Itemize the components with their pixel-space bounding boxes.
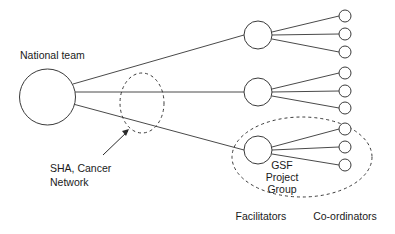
sha-cancer-network-label-line2: Network — [50, 176, 89, 188]
gsf-project-group-label-line1: GSF — [271, 159, 293, 171]
sha-cancer-network-label-line1: SHA, Cancer — [50, 162, 112, 174]
sha-callout-arrowhead — [122, 129, 129, 136]
coordinator-node-2[interactable] — [339, 28, 351, 40]
edge-facilitator-1-coordinator-2 — [272, 34, 339, 35]
edge-root-facilitator-1 — [73, 35, 244, 84]
coordinator-node-1[interactable] — [339, 10, 351, 22]
facilitator-node-1[interactable] — [244, 21, 272, 49]
edge-group-facilitator-1-to-coordinators — [272, 16, 339, 52]
coordinator-node-3[interactable] — [339, 46, 351, 58]
edge-facilitator-2-coordinator-4 — [272, 73, 339, 89]
sha-callout-arrow — [103, 129, 129, 155]
coordinator-node-5[interactable] — [339, 85, 351, 97]
coordinator-node-6[interactable] — [339, 102, 351, 114]
national-team-label: National team — [20, 49, 85, 61]
network-diagram: National team SHA, Cancer Network GSF Pr… — [0, 0, 395, 234]
coordinator-node-8[interactable] — [339, 141, 351, 153]
edge-root-facilitator-3 — [73, 104, 244, 150]
coordinator-node-4[interactable] — [339, 67, 351, 79]
facilitator-node-3[interactable] — [244, 136, 272, 164]
edge-facilitator-2-coordinator-6 — [272, 96, 339, 108]
edge-facilitator-2-coordinator-5 — [272, 91, 339, 92]
edge-group-root-to-facilitators — [73, 35, 244, 150]
facilitator-node-2[interactable] — [244, 78, 272, 106]
sha-callout-line — [103, 131, 128, 155]
column-label-facilitators: Facilitators — [236, 210, 287, 222]
diagram-canvas: National team SHA, Cancer Network GSF Pr… — [0, 0, 395, 234]
edge-group-facilitator-2-to-coordinators — [272, 73, 339, 108]
coordinator-node-9[interactable] — [339, 159, 351, 171]
sha-cancer-network-ellipse — [120, 73, 164, 133]
edge-facilitator-1-coordinator-1 — [272, 16, 339, 32]
edge-facilitator-3-coordinator-7 — [272, 129, 339, 147]
edge-facilitator-3-coordinator-8 — [272, 147, 339, 150]
national-team-node[interactable] — [20, 69, 76, 125]
coordinator-node-7[interactable] — [339, 123, 351, 135]
gsf-project-group-label-line3: Group — [267, 183, 296, 195]
edge-facilitator-1-coordinator-3 — [272, 39, 339, 52]
gsf-project-group-label-line2: Project — [266, 171, 299, 183]
column-label-coordinators: Co-ordinators — [313, 210, 377, 222]
